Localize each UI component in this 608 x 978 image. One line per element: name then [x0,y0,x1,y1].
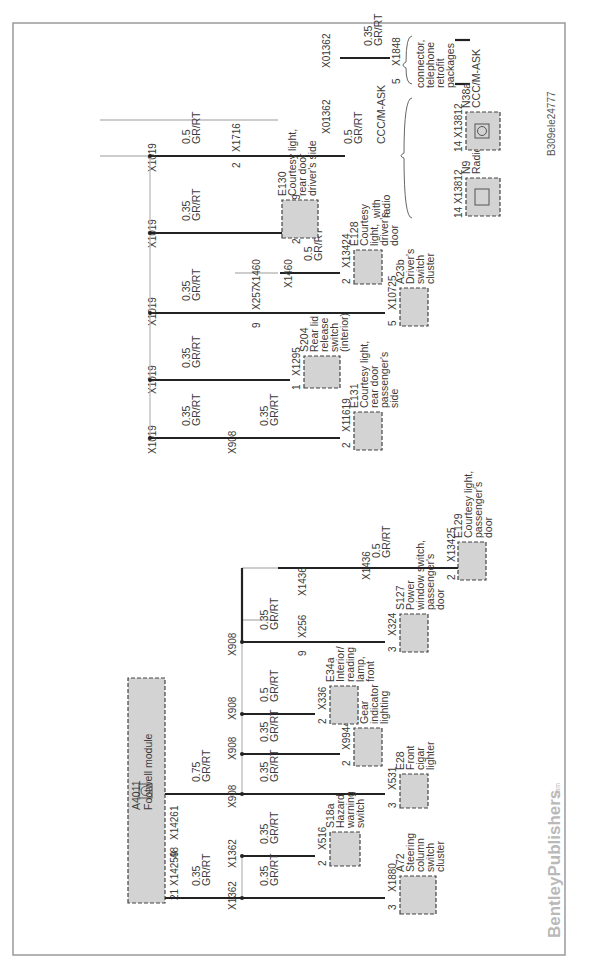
component-n38a[interactable] [466,112,500,150]
svg-text:E28Frontcigarlighter: E28Frontcigarlighter [394,741,436,770]
svg-text:E130Courtesy light,rear doordr: E130Courtesy light,rear doordriver's sid… [276,129,318,196]
svg-text:X01362: X01362 [321,33,332,68]
svg-text:48: 48 [169,846,180,858]
svg-text:2: 2 [446,574,457,580]
svg-text:2: 2 [341,278,352,284]
svg-text:14: 14 [453,206,464,218]
component-e129[interactable] [458,542,486,580]
reference-code: B309ele24777 [546,91,557,156]
component-s18a[interactable] [330,832,360,866]
module-name: Footwell module [142,733,154,810]
module-id: A4011 [130,780,142,810]
svg-text:S18aHazardwarningswitch: S18aHazardwarningswitch [324,791,366,829]
svg-text:X1848: X1848 [391,37,402,66]
svg-text:2: 2 [341,760,352,766]
svg-text:GR/RT: GR/RT [190,393,202,426]
svg-text:GR/RT: GR/RT [190,335,202,368]
svg-text:X1460: X1460 [283,259,294,288]
wiring-diagram: B309ele24777 BentleyPublishers .com A401… [0,0,608,978]
svg-text:9: 9 [297,650,308,656]
svg-text:X256: X256 [297,614,308,638]
svg-text:A23bDriver'sswitchcluster: A23bDriver'sswitchcluster [394,249,436,284]
svg-text:withradio: withradio [370,194,392,219]
svg-text:X01362: X01362 [321,99,332,134]
svg-text:GR/RT: GR/RT [380,525,392,558]
component-e130[interactable] [282,200,318,238]
svg-text:2: 2 [231,162,242,168]
svg-text:3: 3 [387,646,398,652]
component-e131[interactable] [354,412,382,450]
component-e128[interactable] [354,250,382,284]
svg-text:2: 2 [317,718,328,724]
component-e28[interactable] [400,774,428,808]
telephone-retrofit-note: connector,telephoneretrofitpackages [414,40,456,88]
svg-text:E34aInterior/readinglamp,front: E34aInterior/readinglamp,front [324,646,376,682]
svg-text:E129Courtesy light,passenger's: E129Courtesy light,passenger'sdoor [452,471,494,538]
svg-text:X908: X908 [227,632,238,656]
svg-text:S204Rear lidreleaseswitch(inte: S204Rear lidreleaseswitch(interior) [298,313,350,352]
svg-text:GR/RT: GR/RT [268,749,280,782]
svg-text:14: 14 [453,140,464,152]
svg-text:9: 9 [251,322,262,328]
svg-text:X908: X908 [227,696,238,720]
svg-text:3: 3 [387,802,398,808]
svg-text:GR/RT: GR/RT [200,749,212,782]
svg-text:2: 2 [341,442,352,448]
svg-text:3: 3 [387,904,398,910]
svg-text:GR/RT: GR/RT [268,709,280,742]
svg-text:X324: X324 [387,612,398,636]
svg-text:X908: X908 [227,736,238,760]
option-ccc-label: CCC/M-ASK [375,85,387,144]
component-n9[interactable] [466,178,500,216]
svg-text:X516: X516 [317,826,328,850]
svg-text:GR/RT: GR/RT [268,811,280,844]
component-e34a[interactable] [330,686,358,724]
component-a72[interactable] [400,876,436,914]
svg-text:X336: X336 [317,686,328,710]
svg-text:X257: X257 [251,286,262,310]
svg-text:E131Courtesy light,rear doorpa: E131Courtesy light,rear doorpassenger'ss… [348,341,400,408]
svg-text:X1019: X1019 [147,297,158,326]
watermark-suffix: .com [554,783,561,798]
svg-text:A72Steeringcolumnswitchcluster: A72Steeringcolumnswitchcluster [394,833,446,872]
svg-text:S127Powerwindow switch,passeng: S127Powerwindow switch,passenger'sdoor [394,540,446,611]
svg-text:GR/RT: GR/RT [190,111,202,144]
svg-text:GR/RT: GR/RT [190,188,202,221]
watermark-brand: BentleyPublishers [545,790,564,938]
svg-text:GR/RT: GR/RT [190,268,202,301]
svg-text:X908: X908 [227,430,238,454]
svg-text:2: 2 [317,860,328,866]
component-s127[interactable] [400,614,428,652]
svg-text:GR/RT: GR/RT [268,393,280,426]
connector-x14261: X14261 [169,805,180,840]
component-e82[interactable] [354,728,382,766]
svg-text:X1716: X1716 [231,123,242,152]
svg-text:GR/RT: GR/RT [268,597,280,630]
component-s204[interactable] [304,356,340,388]
svg-text:GR/RT: GR/RT [268,853,280,886]
svg-text:X1460: X1460 [251,259,262,288]
svg-text:5: 5 [387,320,398,326]
svg-text:X908: X908 [227,784,238,808]
svg-text:1: 1 [291,384,302,390]
svg-text:GR/RT: GR/RT [372,13,384,46]
svg-text:5: 5 [391,78,402,84]
svg-text:2: 2 [291,238,302,244]
svg-text:GR/RT: GR/RT [352,111,364,144]
svg-text:X1436: X1436 [297,567,308,596]
svg-text:X1362: X1362 [227,839,238,868]
svg-text:X1362: X1362 [227,881,238,910]
component-a23b[interactable] [400,288,428,326]
svg-text:GR/RT: GR/RT [268,669,280,702]
svg-text:GR/RT: GR/RT [200,853,212,886]
svg-text:N38aCCC/M-ASK: N38aCCC/M-ASK [460,49,482,108]
